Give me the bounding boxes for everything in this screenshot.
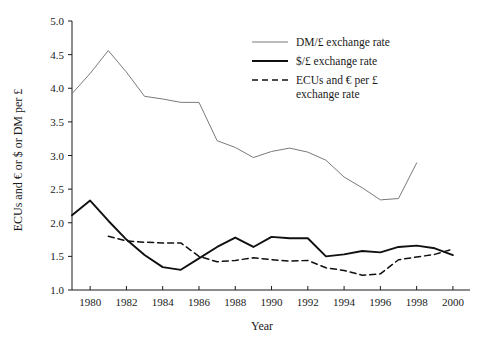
y-tick-label: 2.5 xyxy=(50,183,64,195)
y-tick-label: 4.0 xyxy=(50,82,64,94)
chart-legend: DM/£ exchange rate$/£ exchange rateECUs … xyxy=(252,36,390,101)
x-axis-title: Year xyxy=(251,319,273,333)
y-tick-label: 1.5 xyxy=(50,250,64,262)
y-tick-label: 2.0 xyxy=(50,217,64,229)
x-tick-label: 1980 xyxy=(79,296,102,308)
x-tick-label: 1990 xyxy=(261,296,284,308)
legend-label-0: DM/£ exchange rate xyxy=(296,36,390,49)
legend-label-2: ECUs and € per £ xyxy=(296,74,378,87)
x-tick-label: 1986 xyxy=(188,296,211,308)
legend-label-2-line2: exchange rate xyxy=(296,88,360,101)
x-tick-label: 2000 xyxy=(442,296,465,308)
x-tick-label: 1984 xyxy=(152,296,175,308)
chart-canvas: 1.01.52.02.53.03.54.04.55.0 198019821984… xyxy=(0,0,481,340)
y-axis-title: ECUs and € or $ or DM per £ xyxy=(11,89,25,232)
exchange-rate-line-chart: 1.01.52.02.53.03.54.04.55.0 198019821984… xyxy=(0,0,481,340)
x-tick-label: 1982 xyxy=(115,296,137,308)
y-tick-label: 5.0 xyxy=(50,15,64,27)
x-tick-label: 1988 xyxy=(224,296,247,308)
x-tick-label: 1994 xyxy=(333,296,356,308)
y-tick-label: 4.5 xyxy=(50,49,64,61)
y-tick-label: 3.0 xyxy=(50,150,64,162)
y-tick-label: 3.5 xyxy=(50,116,64,128)
y-tick-label: 1.0 xyxy=(50,284,64,296)
legend-label-1: $/£ exchange rate xyxy=(296,55,377,68)
y-axis-ticks: 1.01.52.02.53.03.54.04.55.0 xyxy=(50,15,72,296)
series-line-2 xyxy=(108,236,453,275)
x-tick-label: 1996 xyxy=(369,296,392,308)
data-series-group xyxy=(72,51,453,276)
series-line-0 xyxy=(72,51,417,200)
x-tick-label: 1992 xyxy=(297,296,319,308)
x-tick-label: 1998 xyxy=(406,296,429,308)
x-axis-ticks: 1980198219841986198819901992199419961998… xyxy=(79,286,464,308)
